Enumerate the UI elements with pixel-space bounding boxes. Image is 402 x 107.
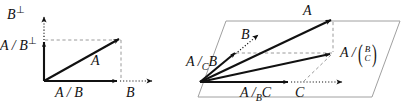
label-a-over-b-c: A /BC xyxy=(240,86,271,103)
column-vector-denominator: C xyxy=(364,54,370,63)
label-b-direction: B xyxy=(241,28,250,42)
column-vector-bc: (BC) xyxy=(356,44,379,64)
label-horizontal-component: A / B xyxy=(55,86,83,100)
label-resultant-vector: A xyxy=(91,54,100,68)
resultant-vector-arrow xyxy=(44,39,119,81)
resultant-vector-arrow xyxy=(200,20,331,82)
label-vertical-axis: B⊥ xyxy=(7,5,25,22)
label-horizontal-axis: B xyxy=(126,86,135,100)
left-panel-graphics xyxy=(44,17,152,81)
label-a-over-b-over-c: A /(BC) xyxy=(340,44,379,64)
right-paren: ) xyxy=(372,44,377,64)
label-resultant-vector-3d: A xyxy=(303,4,312,18)
label-vertical-component: A / B⊥ xyxy=(0,36,37,53)
label-c-direction: C xyxy=(295,86,304,100)
label-a-over-c-b: A /CB xyxy=(186,55,217,72)
figure-canvas: B⊥ A / B⊥ A A / B B A B A /CB A /(BC) A … xyxy=(0,0,402,107)
left-paren: ( xyxy=(358,44,363,64)
a-over-bc-vector-arrow xyxy=(200,54,330,82)
